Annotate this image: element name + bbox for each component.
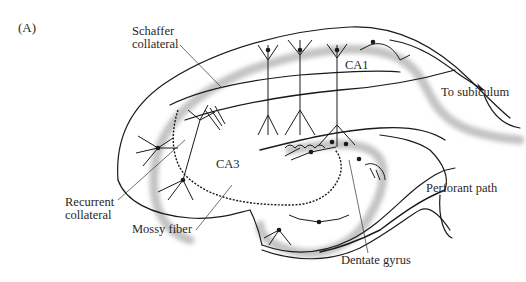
label-perforant-path: Perforant path [426, 182, 497, 195]
hippocampus-diagram: (A) Schaffer collateral CA1 To subiculum… [0, 0, 526, 282]
label-ca1: CA1 [345, 59, 369, 72]
label-recurrent-collateral-line2: collateral [65, 209, 112, 222]
label-to-subiculum: To subiculum [441, 86, 509, 99]
hippocampus-drawing [0, 0, 526, 282]
label-ca3: CA3 [216, 158, 240, 171]
label-schaffer-collateral-line2: collateral [132, 38, 179, 51]
label-dentate-gyrus: Dentate gyrus [341, 254, 411, 267]
panel-label: (A) [18, 20, 36, 36]
label-mossy-fiber: Mossy fiber [132, 223, 192, 236]
